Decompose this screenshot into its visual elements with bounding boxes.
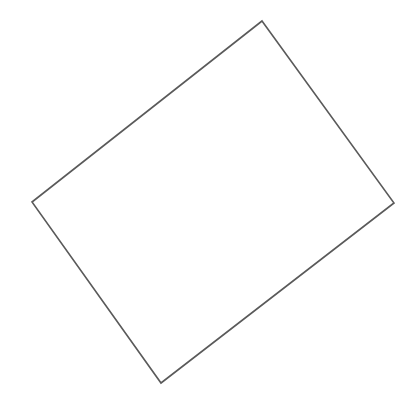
diagram-canvas: [0, 0, 413, 405]
rotated-rectangle: [32, 21, 394, 383]
